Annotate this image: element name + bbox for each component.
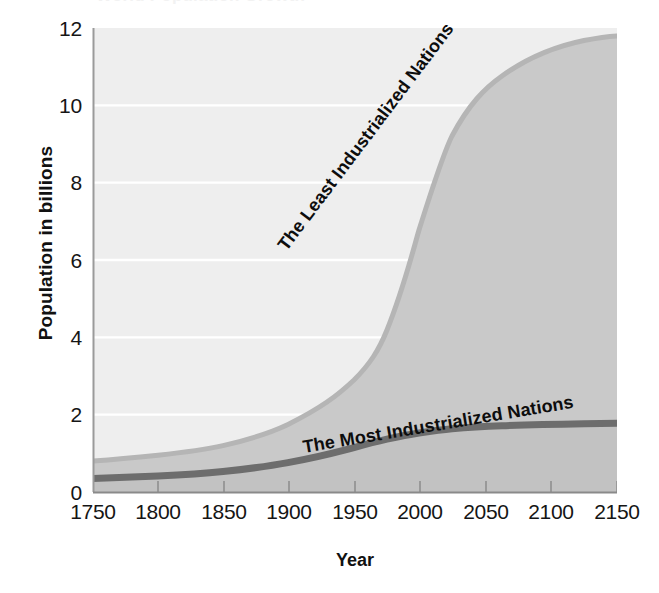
y-tick-label-12: 12 [42, 17, 82, 41]
x-tick-label-1900: 1900 [254, 500, 324, 524]
chart-figure: World Population Growth [0, 0, 659, 593]
x-tick-label-1850: 1850 [189, 500, 259, 524]
x-tick-label-2000: 2000 [385, 500, 455, 524]
x-tick-label-1800: 1800 [123, 500, 193, 524]
x-axis-title: Year [93, 550, 617, 571]
x-tick-label-2050: 2050 [451, 500, 521, 524]
y-axis-title: Population in billions [35, 113, 57, 373]
x-tick-label-1750: 1750 [58, 500, 128, 524]
x-tick-label-1950: 1950 [320, 500, 390, 524]
x-tick-label-2150: 2150 [582, 500, 652, 524]
y-tick-label-2: 2 [42, 403, 82, 427]
x-tick-label-2100: 2100 [516, 500, 586, 524]
